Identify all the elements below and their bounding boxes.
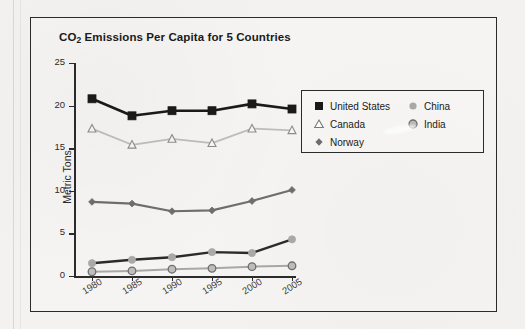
- series-line-norway: [92, 190, 292, 211]
- data-point: [208, 265, 216, 273]
- y-axis-label: Metric Tons: [61, 150, 73, 204]
- data-point: [88, 260, 95, 267]
- data-point: [289, 187, 296, 194]
- y-tick-label-15: 15: [54, 141, 65, 152]
- data-point: [128, 267, 136, 275]
- x-tick-label-1980: 1980: [80, 276, 104, 297]
- y-tick-label-20: 20: [54, 99, 65, 110]
- data-point: [288, 236, 295, 243]
- chart-title-rest: Emissions Per Capita for 5 Countries: [81, 31, 290, 43]
- legend-label-china: China: [424, 101, 450, 112]
- x-axis-line: [74, 276, 296, 278]
- page-margin-line: [20, 0, 21, 329]
- legend-label-norway: Norway: [330, 137, 364, 148]
- series-line-india: [92, 266, 292, 272]
- plot-area: Metric Tons 0 5 10 15 20 25 1980 1985: [74, 63, 296, 276]
- data-point: [208, 107, 216, 115]
- legend: United States Canada Norway China: [301, 90, 484, 153]
- data-point: [169, 208, 176, 215]
- data-point: [248, 100, 256, 108]
- diamond-icon: [312, 135, 326, 149]
- data-point: [168, 107, 176, 115]
- data-point: [248, 263, 256, 271]
- legend-item-canada[interactable]: Canada: [312, 116, 390, 132]
- y-tick-label-10: 10: [54, 184, 65, 195]
- y-tick-label-25: 25: [54, 56, 65, 67]
- data-point: [168, 254, 175, 261]
- series-layer: [74, 63, 296, 276]
- data-point: [209, 207, 216, 214]
- x-tick-label-1990: 1990: [160, 276, 184, 297]
- data-point: [129, 200, 136, 207]
- data-point: [128, 112, 136, 120]
- x-tick-label-2000: 2000: [240, 276, 264, 297]
- x-tick-label-2005: 2005: [280, 276, 304, 297]
- data-point: [248, 249, 255, 256]
- y-tick-0: 0: [69, 276, 74, 277]
- data-point: [88, 124, 96, 132]
- data-point: [88, 95, 96, 103]
- x-tick-label-1995: 1995: [200, 276, 224, 297]
- y-tick-label-5: 5: [60, 226, 65, 237]
- legend-label-india: India: [424, 119, 446, 130]
- series-line-united-states: [92, 99, 292, 116]
- legend-item-china[interactable]: China: [406, 98, 450, 114]
- legend-label-canada: Canada: [330, 119, 365, 130]
- data-point: [288, 105, 296, 113]
- x-tick-label-1985: 1985: [120, 276, 144, 297]
- chart-title: CO2 Emissions Per Capita for 5 Countries: [59, 31, 291, 43]
- light-circle-icon: [406, 99, 420, 113]
- series-line-china: [92, 239, 292, 263]
- open-triangle-icon: [312, 117, 326, 131]
- page-edge-line: [13, 0, 14, 329]
- legend-label-united-states: United States: [330, 101, 390, 112]
- chart-title-subscript: 2: [76, 35, 81, 45]
- data-point: [128, 256, 135, 263]
- data-point: [168, 265, 176, 273]
- chart-frame: CO2 Emissions Per Capita for 5 Countries…: [30, 17, 497, 312]
- legend-item-united-states[interactable]: United States: [312, 98, 390, 114]
- data-point: [288, 262, 296, 270]
- data-point: [208, 249, 215, 256]
- data-point: [249, 198, 256, 205]
- series-line-canada: [92, 129, 292, 145]
- legend-item-norway[interactable]: Norway: [312, 134, 390, 150]
- data-point: [89, 198, 96, 205]
- data-point: [88, 268, 96, 276]
- legend-column-left: United States Canada Norway: [312, 98, 390, 152]
- filled-square-icon: [312, 99, 326, 113]
- y-tick-label-0: 0: [60, 269, 65, 280]
- chart-title-main: CO: [59, 31, 76, 43]
